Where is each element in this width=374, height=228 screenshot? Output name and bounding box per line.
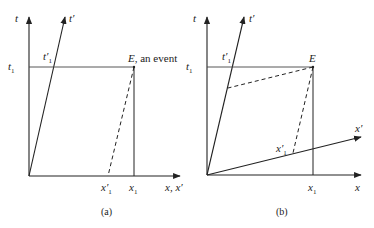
t-prime-axis — [207, 17, 244, 175]
x1-label: x1 — [307, 181, 317, 196]
figure-a: t t′ t1 t′1 E, an event x′1 x1 x, x′ (a) — [8, 12, 183, 218]
x-prime-axis-label: x′ — [354, 122, 363, 134]
x-axis-label: x — [354, 181, 360, 193]
caption-a: (a) — [101, 206, 112, 218]
t-prime-axis-label: t′ — [249, 12, 255, 24]
event-point — [312, 66, 314, 68]
event-point — [133, 66, 135, 68]
spacetime-diagrams: t t′ t1 t′1 E, an event x′1 x1 x, x′ (a)… — [0, 0, 374, 228]
t-axis-label: t — [193, 12, 197, 24]
x-axis-label: x, x′ — [164, 181, 183, 193]
t1-prime-label: t′1 — [43, 50, 52, 65]
event-label: E, an event — [127, 52, 177, 64]
x1-prime-label: x′1 — [100, 181, 112, 196]
t1-label: t1 — [8, 60, 15, 75]
t1-prime-label: t′1 — [222, 50, 231, 65]
event-label: E — [308, 52, 316, 64]
x1-label: x1 — [128, 181, 138, 196]
t1-prime-dashed-line — [228, 67, 313, 88]
t-axis-label: t — [15, 12, 19, 24]
figure-b: t t′ t1 t′1 E x′ x′1 x1 x (b) — [186, 12, 363, 218]
t-prime-axis — [29, 17, 65, 176]
caption-b: (b) — [276, 206, 288, 218]
t-prime-axis-label: t′ — [69, 12, 75, 24]
x1-prime-dashed-line — [293, 67, 313, 153]
x1-prime-dashed-line — [108, 67, 134, 176]
t1-label: t1 — [186, 60, 193, 75]
x1-prime-label: x′1 — [275, 142, 287, 157]
